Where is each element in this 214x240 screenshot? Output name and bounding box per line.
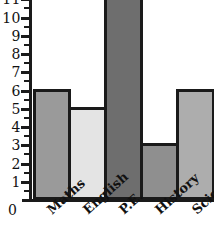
y-axis-tick-2 [21, 163, 32, 166]
y-axis-label-3: 3 [1, 138, 21, 152]
y-axis-label-11: 11 [1, 0, 21, 6]
y-axis-minor-tick [24, 7, 32, 9]
y-axis-tick-10 [21, 17, 32, 20]
y-axis-minor-tick [24, 26, 32, 28]
y-axis-tick-3 [21, 144, 32, 147]
y-axis-tick-8 [21, 53, 32, 56]
y-axis-tick-9 [21, 35, 32, 38]
y-axis-label-8: 8 [1, 47, 21, 61]
y-axis-tick-6 [21, 90, 32, 93]
y-axis-label-7: 7 [1, 65, 21, 79]
y-axis-minor-tick [24, 153, 32, 155]
y-axis-minor-tick [24, 117, 32, 119]
y-axis-label-10: 10 [1, 11, 21, 25]
y-axis-tick-4 [21, 126, 32, 129]
x-axis-category-labels: MathsEnglishP.E.HistoryScience [0, 200, 214, 240]
y-axis-tick-1 [21, 181, 32, 184]
bar-maths [33, 89, 71, 201]
y-axis-minor-tick [24, 62, 32, 64]
y-axis-label-9: 9 [1, 29, 21, 43]
y-axis-label-4: 4 [1, 120, 21, 134]
bar-p-e [104, 0, 143, 200]
y-axis-label-6: 6 [1, 84, 21, 98]
y-axis-label-2: 2 [1, 157, 21, 171]
bar-chart: 1234567891011 0 MathsEnglishP.E.HistoryS… [0, 0, 214, 240]
y-axis-label-5: 5 [1, 102, 21, 116]
y-axis-minor-tick [24, 172, 32, 174]
y-axis-minor-tick [24, 44, 32, 46]
y-axis-minor-tick [24, 190, 32, 192]
y-axis-tick-11 [21, 0, 32, 1]
y-axis-tick-5 [21, 108, 32, 111]
plot-area [33, 0, 214, 200]
y-axis-tick-7 [21, 71, 32, 74]
y-axis-minor-tick [24, 135, 32, 137]
y-axis-label-1: 1 [1, 175, 21, 189]
y-axis-minor-tick [24, 99, 32, 101]
y-axis-minor-tick [24, 80, 32, 82]
